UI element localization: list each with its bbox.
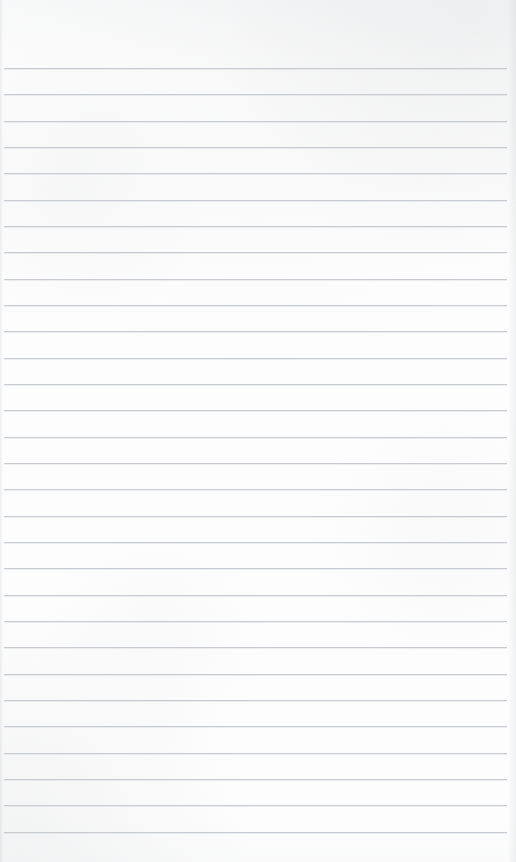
- writing-row[interactable]: [4, 780, 507, 805]
- ruled-line: [4, 832, 507, 833]
- notebook-page: [0, 0, 516, 862]
- writing-row[interactable]: [4, 43, 507, 68]
- ruled-line: [4, 568, 507, 569]
- writing-row[interactable]: [4, 227, 507, 252]
- writing-row[interactable]: [4, 807, 507, 832]
- writing-row[interactable]: [4, 675, 507, 700]
- writing-row[interactable]: [4, 69, 507, 94]
- ruled-line: [4, 410, 507, 411]
- writing-row[interactable]: [4, 517, 507, 542]
- writing-row[interactable]: [4, 254, 507, 279]
- writing-row[interactable]: [4, 570, 507, 595]
- ruled-line: [4, 173, 507, 174]
- writing-row[interactable]: [4, 306, 507, 331]
- writing-row[interactable]: [4, 96, 507, 121]
- writing-row[interactable]: [4, 622, 507, 647]
- writing-row[interactable]: [4, 649, 507, 674]
- writing-row[interactable]: [4, 491, 507, 516]
- writing-row[interactable]: [4, 596, 507, 621]
- writing-row[interactable]: [4, 385, 507, 410]
- writing-row[interactable]: [4, 754, 507, 779]
- ruled-lines-group: [0, 0, 516, 862]
- writing-row[interactable]: [4, 438, 507, 463]
- ruled-line: [4, 647, 507, 648]
- writing-row[interactable]: [4, 201, 507, 226]
- writing-row[interactable]: [4, 148, 507, 173]
- writing-row[interactable]: [4, 359, 507, 384]
- writing-row[interactable]: [4, 464, 507, 489]
- ruled-line: [4, 726, 507, 727]
- writing-row[interactable]: [4, 122, 507, 147]
- ruled-line: [4, 331, 507, 332]
- writing-row[interactable]: [4, 728, 507, 753]
- ruled-line: [4, 489, 507, 490]
- writing-row[interactable]: [4, 280, 507, 305]
- writing-row[interactable]: [4, 175, 507, 200]
- writing-row[interactable]: [4, 701, 507, 726]
- ruled-line: [4, 805, 507, 806]
- writing-row[interactable]: [4, 412, 507, 437]
- ruled-line: [4, 94, 507, 95]
- ruled-line: [4, 252, 507, 253]
- writing-row[interactable]: [4, 543, 507, 568]
- writing-row[interactable]: [4, 333, 507, 358]
